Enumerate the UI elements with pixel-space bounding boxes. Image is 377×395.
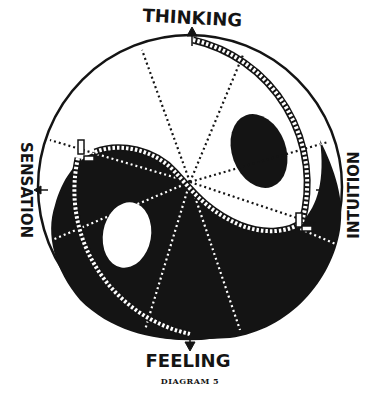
label-intuition: INTUITION	[345, 151, 363, 238]
diagram-caption: DIAGRAM 5	[161, 376, 219, 386]
label-sensation: SENSATION	[17, 142, 35, 238]
yin-yang-psychological-types-diagram: THINKING FEELING SENSATION INTUITION DIA…	[0, 0, 377, 395]
label-feeling: FEELING	[146, 350, 231, 371]
label-thinking: THINKING	[142, 4, 243, 30]
